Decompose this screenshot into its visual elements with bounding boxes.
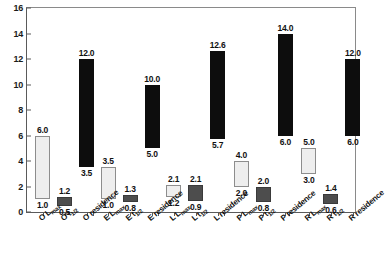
- y-tick-mark: [27, 8, 31, 9]
- bar-high-value-label: 5.0: [303, 137, 314, 147]
- y-tick-label: 2: [18, 182, 27, 192]
- bar-high-value-label: 2.1: [168, 174, 179, 184]
- y-tick-mark: [27, 33, 31, 34]
- bar-high-value-label: 1.3: [124, 184, 135, 194]
- y-tick-mark: [27, 186, 31, 187]
- bar-high-value-label: 3.5: [102, 156, 113, 166]
- bar-low-value-label: 5.0: [146, 149, 157, 159]
- bar-high-value-label: 12.0: [79, 48, 95, 58]
- bar: [345, 59, 360, 136]
- y-tick-label: 10: [13, 80, 27, 90]
- y-tick-mark: [27, 110, 31, 111]
- bar-low-value-label: 3.0: [303, 175, 314, 185]
- y-tick-mark: [27, 161, 31, 162]
- y-tick-mark: [27, 84, 31, 85]
- y-tick-label: 4: [18, 156, 27, 166]
- bar-high-value-label: 14.0: [277, 23, 293, 33]
- bar: [145, 85, 160, 149]
- bar-high-value-label: 4.0: [236, 150, 247, 160]
- y-tick-label: 12: [13, 54, 27, 64]
- bar: [301, 148, 316, 174]
- bar-low-value-label: 5.7: [212, 140, 223, 150]
- bar-high-value-label: 2.1: [190, 174, 201, 184]
- bar: [35, 136, 50, 200]
- bar-low-value-label: 3.5: [81, 168, 92, 178]
- y-tick-mark: [27, 212, 31, 213]
- bar: [188, 185, 203, 200]
- bar-high-value-label: 1.2: [59, 186, 70, 196]
- bar: [278, 34, 293, 136]
- bar-high-value-label: 12.0: [345, 48, 361, 58]
- bar: [123, 195, 138, 201]
- y-tick-label: 0: [18, 207, 27, 217]
- bar: [323, 194, 338, 204]
- bar: [79, 59, 94, 167]
- y-tick-label: 14: [13, 29, 27, 39]
- bar-low-value-label: 6.0: [280, 137, 291, 147]
- bar: [234, 161, 249, 187]
- bar: [210, 51, 225, 139]
- y-tick-mark: [27, 135, 31, 136]
- bar-high-value-label: 6.0: [37, 125, 48, 135]
- bar-high-value-label: 10.0: [144, 74, 160, 84]
- bar-high-value-label: 12.6: [210, 40, 226, 50]
- y-tick-label: 16: [13, 3, 27, 13]
- y-tick-label: 8: [18, 105, 27, 115]
- y-tick-mark: [27, 59, 31, 60]
- plot-area: 0246810121416 6.01.01.20.512.03.53.51.01…: [26, 7, 356, 213]
- bar-high-value-label: 1.4: [325, 183, 336, 193]
- y-tick-label: 6: [18, 131, 27, 141]
- bar: [256, 187, 271, 202]
- bar-low-value-label: 6.0: [347, 137, 358, 147]
- bar-high-value-label: 2.0: [258, 176, 269, 186]
